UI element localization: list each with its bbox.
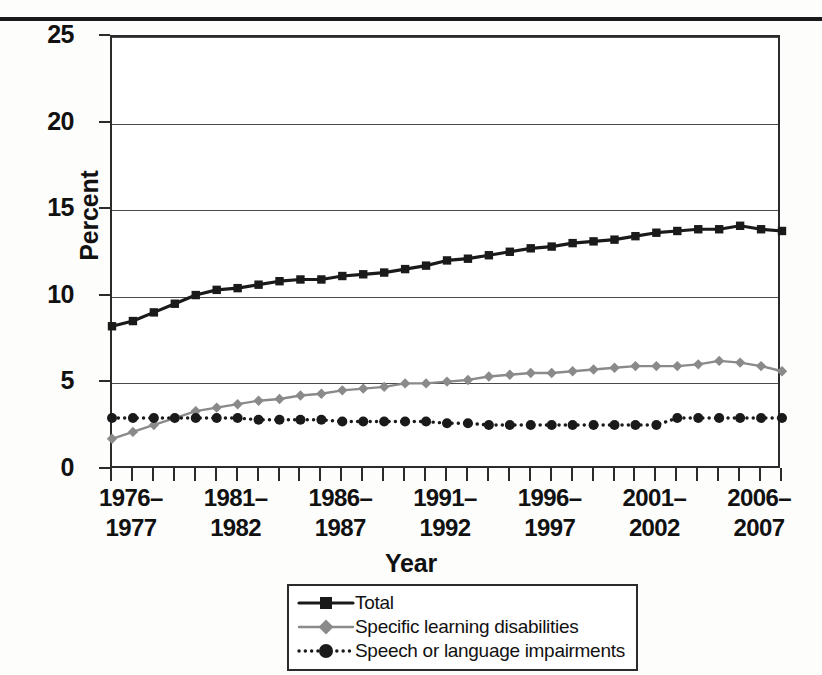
data-point-marker [421, 378, 431, 388]
x-tick-mark [571, 468, 573, 481]
x-tick-mark [613, 468, 615, 481]
y-tick-label: 10 [12, 282, 74, 307]
data-point-marker [567, 366, 577, 376]
y-tick-label: 5 [12, 368, 74, 393]
data-point-marker [694, 225, 702, 233]
data-point-marker [735, 357, 745, 367]
data-point-marker [107, 434, 117, 444]
x-tick-mark [215, 468, 217, 481]
data-point-marker [546, 368, 556, 378]
legend-item-sld-key: Specific learning disabilities [297, 615, 628, 639]
data-point-marker [672, 361, 682, 371]
data-point-marker [275, 415, 285, 425]
y-tick-mark [99, 380, 110, 382]
data-point-marker [421, 417, 431, 427]
x-tick-mark [487, 468, 489, 481]
data-point-marker [631, 232, 639, 240]
legend-label: Specific learning disabilities [355, 616, 578, 638]
data-point-marker [756, 413, 766, 423]
data-point-marker [443, 256, 451, 264]
x-tick-mark [529, 468, 531, 481]
data-point-marker [192, 291, 200, 299]
series-1 [108, 222, 786, 331]
x-tick-label-line2: 2007 [689, 513, 822, 543]
x-tick-mark [110, 468, 112, 481]
y-tick-mark [99, 467, 110, 469]
data-point-marker [233, 284, 241, 292]
data-point-marker [380, 268, 388, 276]
data-point-marker [337, 385, 347, 395]
y-tick-label: 0 [12, 455, 74, 480]
x-tick-mark [445, 468, 447, 481]
x-tick-mark [633, 468, 635, 481]
x-tick-mark [424, 468, 426, 481]
data-point-marker [337, 417, 347, 427]
x-tick-mark [257, 468, 259, 481]
data-point-marker [253, 396, 263, 406]
data-point-marker [757, 225, 765, 233]
series-2 [107, 356, 787, 444]
data-point-marker [609, 363, 619, 373]
y-tick-label: 25 [12, 22, 74, 47]
data-point-marker [359, 270, 367, 278]
data-point-marker [296, 275, 304, 283]
x-tick-mark [654, 468, 656, 481]
data-point-marker [463, 375, 473, 385]
y-tick-mark [99, 294, 110, 296]
legend-marker-circle-icon [319, 644, 333, 658]
data-point-marker [191, 413, 201, 423]
data-point-marker [736, 222, 744, 230]
data-point-marker [128, 413, 138, 423]
legend-marker-diamond-icon [319, 620, 334, 635]
x-tick-mark [592, 468, 594, 481]
series-3 [107, 413, 787, 430]
plot-area [110, 35, 780, 468]
data-point-marker [777, 413, 787, 423]
data-point-marker [232, 399, 242, 409]
series-line [112, 226, 782, 326]
data-point-marker [212, 286, 220, 294]
sld-key-swatch [297, 616, 355, 638]
data-point-marker [651, 420, 661, 430]
x-tick-mark [361, 468, 363, 481]
data-point-marker [379, 382, 389, 392]
data-point-marker [316, 389, 326, 399]
legend-item-sli-key: Speech or language impairments [297, 639, 628, 663]
data-point-marker [338, 272, 346, 280]
legend-item-total-key: Total [297, 591, 628, 615]
y-axis-title: Percent [75, 121, 104, 311]
y-tick-mark [99, 121, 110, 123]
data-point-marker [171, 300, 179, 308]
data-point-marker [652, 229, 660, 237]
x-tick-mark [738, 468, 740, 481]
data-point-marker [484, 420, 494, 430]
x-tick-mark [319, 468, 321, 481]
data-point-marker [442, 376, 452, 386]
data-point-marker [588, 364, 598, 374]
data-point-marker [484, 371, 494, 381]
data-point-marker [672, 413, 682, 423]
data-point-marker [128, 427, 138, 437]
data-point-marker [630, 420, 640, 430]
x-tick-mark [780, 468, 782, 481]
data-point-marker [274, 394, 284, 404]
data-point-marker [442, 418, 452, 428]
data-point-marker [422, 261, 430, 269]
x-tick-mark [403, 468, 405, 481]
y-tick-label: 15 [12, 195, 74, 220]
data-point-marker [170, 413, 180, 423]
data-point-marker [505, 420, 515, 430]
data-point-marker [485, 251, 493, 259]
x-tick-mark [340, 468, 342, 481]
x-tick-mark [550, 468, 552, 481]
x-tick-label-line1: 2006– [689, 483, 822, 513]
x-tick-mark [298, 468, 300, 481]
data-point-marker [129, 317, 137, 325]
chart-legend: TotalSpecific learning disabilitiesSpeec… [287, 584, 638, 671]
data-point-marker [358, 417, 368, 427]
sli-key-swatch [297, 640, 355, 662]
x-tick-mark [382, 468, 384, 481]
data-point-marker [547, 242, 555, 250]
x-tick-mark [152, 468, 154, 481]
data-point-marker [778, 227, 786, 235]
